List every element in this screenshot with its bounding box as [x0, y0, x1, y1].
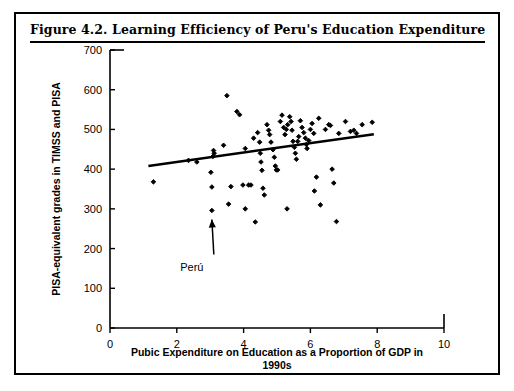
data-point: [267, 132, 272, 137]
data-point: [258, 151, 263, 156]
y-tick-label: 400: [84, 163, 102, 175]
data-point: [210, 185, 215, 190]
data-point: [283, 132, 288, 137]
x-axis-title-line2: 1990s: [262, 359, 291, 371]
data-point: [311, 131, 316, 136]
data-point: [209, 170, 214, 175]
data-point: [301, 130, 306, 135]
data-point: [229, 184, 234, 189]
y-tick-label: 600: [84, 84, 102, 96]
data-point: [272, 155, 277, 160]
data-point: [261, 186, 266, 191]
data-point: [221, 143, 226, 148]
figure-container: Figure 4.2. Learning Efficiency of Peru'…: [14, 12, 500, 375]
annotation-label: Perú: [180, 261, 203, 273]
data-point: [293, 151, 298, 156]
data-point: [255, 130, 260, 135]
data-point: [331, 181, 336, 186]
data-points-group: [151, 93, 374, 224]
data-point: [308, 127, 313, 132]
data-point: [334, 219, 339, 224]
data-point: [226, 202, 231, 207]
data-point: [278, 119, 283, 124]
annotation-group: Perú: [180, 219, 216, 272]
data-point: [305, 146, 310, 151]
data-point: [241, 183, 246, 188]
data-point: [290, 128, 295, 133]
x-axis-title-line1: Pubic Expenditure on Education as a Prop…: [131, 346, 423, 358]
data-point: [330, 167, 335, 172]
data-point: [294, 157, 299, 162]
data-point: [243, 207, 248, 212]
data-point: [316, 116, 321, 121]
data-point: [291, 139, 296, 144]
axes-group: [110, 50, 444, 328]
y-tick-label: 500: [84, 123, 102, 135]
y-tick-label: 200: [84, 243, 102, 255]
data-point: [312, 189, 317, 194]
y-tick-label: 100: [84, 282, 102, 294]
annotation-arrow-head: [209, 219, 216, 227]
data-point: [336, 131, 341, 136]
data-point: [295, 139, 300, 144]
data-point: [343, 119, 348, 124]
x-tick-label: 10: [438, 338, 450, 350]
data-point: [253, 220, 258, 225]
chart-svg: 0100200300400500600700 0246810 Perú PISA…: [16, 14, 502, 377]
y-axis-title: PISA-equivalent grades in TIMSS and PISA: [50, 82, 62, 296]
data-point: [265, 122, 270, 127]
data-point: [243, 146, 248, 151]
scatter-chart: 0100200300400500600700 0246810 Perú PISA…: [16, 14, 502, 377]
data-point: [257, 140, 262, 145]
data-point: [251, 136, 256, 141]
data-point: [318, 203, 323, 208]
data-point: [259, 160, 264, 165]
y-tick-label: 0: [96, 322, 102, 334]
data-point: [370, 120, 375, 125]
data-point: [262, 193, 267, 198]
y-tick-label: 300: [84, 203, 102, 215]
y-tick-label: 700: [84, 44, 102, 56]
data-point: [323, 127, 328, 132]
data-point: [280, 113, 285, 118]
data-point: [289, 119, 294, 124]
data-point: [360, 122, 365, 127]
x-tick-label: 0: [107, 338, 113, 350]
data-point: [225, 93, 230, 98]
data-point: [296, 134, 301, 139]
data-point: [269, 140, 274, 145]
data-point: [151, 180, 156, 185]
data-point: [300, 125, 305, 130]
data-point: [310, 121, 315, 126]
data-point: [298, 118, 303, 123]
data-point: [210, 208, 215, 213]
data-point: [266, 128, 271, 133]
data-point: [260, 168, 265, 173]
data-point: [285, 122, 290, 127]
data-point: [285, 207, 290, 212]
data-point: [273, 164, 278, 169]
data-point: [314, 175, 319, 180]
data-point: [287, 114, 292, 119]
